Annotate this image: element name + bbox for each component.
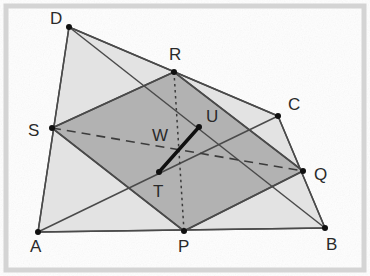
vertex-dot-c [275,113,281,119]
vertex-label-Q: Q [314,165,327,184]
vertex-label-B: B [326,235,337,254]
vertex-dot-t [156,169,162,175]
vertex-label-T: T [153,182,163,201]
vertex-label-U: U [206,107,218,126]
vertex-dot-b [322,225,328,231]
vertex-dot-u [196,124,202,130]
vertex-label-P: P [178,237,189,256]
vertex-dot-a [35,229,41,235]
vertex-label-A: A [30,237,42,256]
vertex-dot-r [171,69,177,75]
vertex-label-W: W [152,126,168,145]
vertex-dot-s [49,125,55,131]
figure-canvas: A B C D P Q R S T U W [0,0,370,276]
vertex-dot-d [66,24,72,30]
geometry-figure: A B C D P Q R S T U W [0,0,370,276]
vertex-dot-q [300,168,306,174]
vertex-label-R: R [169,45,181,64]
vertex-label-C: C [288,95,300,114]
vertex-label-D: D [50,9,62,28]
vertex-dot-p [181,228,187,234]
vertex-label-S: S [28,121,39,140]
